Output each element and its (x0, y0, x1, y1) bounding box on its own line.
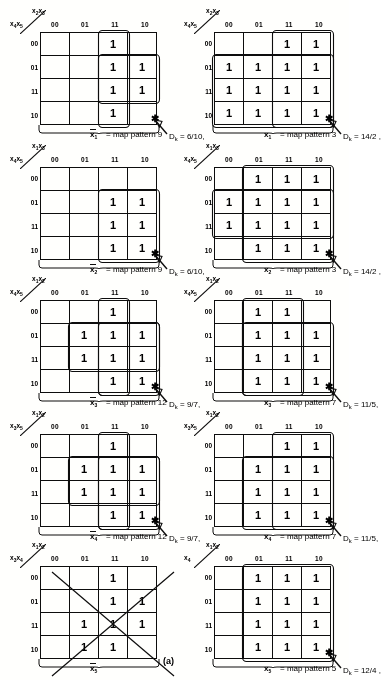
map-r2c2-top-axis-label: x1x3 (206, 142, 219, 149)
kmap-cell-one: 1 (244, 590, 273, 613)
kmap-cell-empty (70, 214, 99, 237)
row-header: 11 (202, 215, 212, 239)
map-r2c1-side-axis-label: x4x5 (10, 155, 23, 162)
kmap-cell-empty (128, 301, 157, 324)
row-header: 00 (202, 300, 212, 324)
row-header: 11 (28, 482, 38, 506)
kmap-cell-one: 1 (99, 56, 128, 79)
map-r1c2-map-pattern-label: = map pattern 3 (280, 130, 336, 139)
col-header: 11 (100, 156, 130, 163)
kmap-cell-one: 1 (273, 56, 302, 79)
kmap-cell-empty (70, 56, 99, 79)
map-r2c2-column-headers: 00011110 (214, 156, 334, 163)
map-r3c2: x1x2x4x5000111100001111011111111111x3= m… (180, 272, 354, 407)
col-header: 01 (244, 555, 274, 562)
kmap-cell-empty (215, 636, 244, 659)
map-r2c2-side-axis-label: x4x5 (184, 155, 197, 162)
kmap-row: 1111 (215, 56, 331, 79)
map-r3c2-column-headers: 00011110 (214, 289, 334, 296)
kmap-row (41, 168, 157, 191)
map-r5c2-dk-value: Dk = 12/4 , (343, 666, 381, 675)
map-r4c2-grid: 11111111111 (214, 434, 331, 527)
map-r1c1-star-marker: ✱ (151, 114, 159, 124)
kmap-cell-one: 1 (273, 504, 302, 527)
col-header: 10 (130, 156, 160, 163)
map-r5c1-under-brace (38, 659, 160, 668)
map-r3c1-column-headers: 00011110 (40, 289, 160, 296)
kmap-cell-one: 1 (244, 636, 273, 659)
col-header: 11 (274, 289, 304, 296)
col-header: 00 (40, 289, 70, 296)
col-header: 01 (244, 156, 274, 163)
kmap-cell-one: 1 (215, 102, 244, 125)
map-r5c2-row-headers: 00011110 (202, 566, 212, 662)
kmap-cell-empty (41, 191, 70, 214)
kmap-cell-empty (215, 613, 244, 636)
kmap-cell-one: 1 (302, 79, 331, 102)
kmap-cell-one: 1 (244, 168, 273, 191)
kmap-cell-one: 1 (273, 590, 302, 613)
map-r1c1-grid: 111111 (40, 32, 157, 125)
col-header: 11 (274, 156, 304, 163)
kmap-row: 11 (41, 370, 157, 393)
kmap-cell-one: 1 (273, 370, 302, 393)
kmap-cell-one: 1 (244, 567, 273, 590)
kmap-row: 11 (215, 435, 331, 458)
kmap-cell-one: 1 (244, 613, 273, 636)
map-r1c1-column-headers: 00011110 (40, 21, 160, 28)
map-r2c1: x1x3x4x50001111000011110111111x2= map pa… (6, 139, 180, 274)
kmap-row: 111 (41, 458, 157, 481)
kmap-cell-one: 1 (70, 458, 99, 481)
map-r5c2-star-marker: ✱ (325, 648, 333, 658)
map-r2c2: x1x3x4x5000111100001111011111111111111x2… (180, 139, 354, 274)
row-header: 10 (202, 372, 212, 396)
kmap-cell-one: 1 (244, 79, 273, 102)
kmap-cell-one: 1 (128, 347, 157, 370)
col-header: 00 (214, 555, 244, 562)
kmap-cell-one: 1 (302, 567, 331, 590)
map-r5c2-grid: 111111111111 (214, 566, 331, 659)
kmap-cell-one: 1 (273, 324, 302, 347)
map-r3c1-side-axis-label: x4x5 (10, 288, 23, 295)
map-r2c2-row-headers: 00011110 (202, 167, 212, 263)
row-header: 11 (28, 215, 38, 239)
map-r1c2-column-headers: 00011110 (214, 21, 334, 28)
map-r1c2-row-headers: 00011110 (202, 32, 212, 128)
map-r2c2-grid: 11111111111111 (214, 167, 331, 260)
figure-caption: (a) (163, 656, 174, 666)
col-header: 11 (100, 21, 130, 28)
kmap-cell-one: 1 (99, 79, 128, 102)
kmap-cell-empty (70, 435, 99, 458)
row-header: 00 (28, 167, 38, 191)
kmap-cell-one: 1 (99, 301, 128, 324)
col-header: 10 (304, 289, 334, 296)
kmap-cell-one: 1 (244, 458, 273, 481)
kmap-cell-empty (70, 33, 99, 56)
kmap-cell-one: 1 (244, 214, 273, 237)
kmap-cell-empty (215, 504, 244, 527)
kmap-cell-one: 1 (244, 370, 273, 393)
map-r2c1-top-axis-label: x1x3 (32, 142, 45, 149)
map-r4c1-column-headers: 00011110 (40, 423, 160, 430)
col-header: 10 (304, 555, 334, 562)
kmap-cell-one: 1 (302, 33, 331, 56)
col-header: 00 (40, 156, 70, 163)
kmap-cell-empty (128, 168, 157, 191)
col-header: 11 (100, 289, 130, 296)
kmap-cell-one: 1 (215, 79, 244, 102)
kmap-cell-one: 1 (302, 191, 331, 214)
row-header: 01 (202, 324, 212, 348)
kmap-cell-one: 1 (244, 191, 273, 214)
kmap-row: 1111 (215, 191, 331, 214)
kmap-cell-empty (41, 33, 70, 56)
kmap-cell-one: 1 (99, 191, 128, 214)
col-header: 00 (214, 21, 244, 28)
kmap-cell-empty (215, 458, 244, 481)
row-header: 10 (28, 506, 38, 530)
kmap-cell-empty (41, 79, 70, 102)
map-r4c1-star-marker: ✱ (151, 516, 159, 526)
kmap-row: 111 (41, 324, 157, 347)
kmap-cell-one: 1 (273, 33, 302, 56)
kmap-cell-one: 1 (128, 214, 157, 237)
